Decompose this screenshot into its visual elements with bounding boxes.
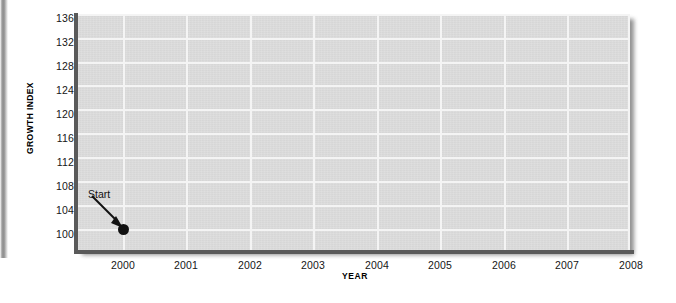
y-tick-label: 136 [44, 12, 74, 24]
y-tick-label: 112 [44, 156, 74, 168]
gridline-vertical [377, 14, 379, 250]
paper-texture [78, 14, 630, 250]
x-tick-label: 2007 [542, 259, 592, 271]
gridline-horizontal [78, 109, 630, 111]
gridline-vertical [313, 14, 315, 250]
y-tick-label: 116 [44, 132, 74, 144]
x-tick-label: 2006 [479, 259, 529, 271]
y-axis-line [74, 13, 78, 252]
chart-page: GROWTH INDEX 136 132 128 124 120 116 112… [0, 0, 676, 303]
x-tick-label: 2001 [161, 259, 211, 271]
gridline-horizontal [78, 133, 630, 135]
x-axis-title: YEAR [342, 271, 368, 281]
x-axis-line [74, 250, 634, 254]
x-tick-label: 2004 [352, 259, 402, 271]
y-tick-label: 104 [44, 204, 74, 216]
data-point-start [118, 224, 129, 235]
gridline-horizontal [78, 14, 630, 16]
plot-area [78, 14, 630, 250]
gridline-vertical [504, 14, 506, 250]
y-tick-label: 100 [44, 228, 74, 240]
start-annotation-arrow [78, 14, 630, 250]
gridline-vertical [123, 14, 125, 250]
gridline-horizontal [78, 181, 630, 183]
gridline-horizontal [78, 38, 630, 40]
gridline-vertical [250, 14, 252, 250]
x-tick-label: 2008 [606, 259, 656, 271]
gridline-vertical [186, 14, 188, 250]
y-tick-label: 120 [44, 108, 74, 120]
gridline-vertical [628, 14, 630, 250]
gridline-horizontal [78, 157, 630, 159]
x-tick-label: 2000 [98, 259, 148, 271]
gridline-vertical [567, 14, 569, 250]
x-tick-label: 2002 [225, 259, 275, 271]
gridline-horizontal [78, 229, 630, 231]
x-tick-label: 2005 [415, 259, 465, 271]
y-tick-label: 128 [44, 60, 74, 72]
y-tick-label: 132 [44, 36, 74, 48]
gridline-vertical [440, 14, 442, 250]
gridline-horizontal [78, 62, 630, 64]
chart-frame [78, 14, 630, 250]
y-tick-label: 108 [44, 180, 74, 192]
start-annotation-label: Start [88, 188, 110, 200]
x-tick-label: 2003 [288, 259, 338, 271]
y-tick-label: 124 [44, 84, 74, 96]
gridline-horizontal [78, 85, 630, 87]
gridline-horizontal [78, 205, 630, 207]
